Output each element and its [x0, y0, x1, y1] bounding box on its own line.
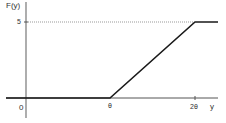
theta-label: θ	[108, 102, 112, 109]
x-axis-label: y	[210, 103, 214, 111]
y-axis-label: F(y)	[6, 2, 20, 10]
origin-label: 0	[19, 104, 23, 112]
cdf-curve	[6, 22, 218, 98]
two-theta-label: 2θ	[190, 103, 198, 110]
y-tick-label-5: 5	[17, 18, 21, 25]
